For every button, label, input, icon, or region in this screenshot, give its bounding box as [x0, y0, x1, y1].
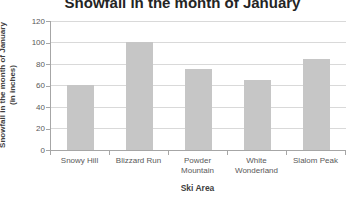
x-axis-title: Ski Area	[50, 183, 345, 193]
y-tick-label: 60	[0, 81, 45, 90]
y-tick-mark	[46, 64, 50, 65]
x-tick-mark	[227, 151, 228, 155]
x-tick-mark	[168, 151, 169, 155]
y-tick-mark	[46, 129, 50, 130]
bar-white-wonderland	[244, 80, 271, 150]
category-label: Snowy Hill	[50, 156, 109, 166]
category-label: Powder Mountain	[168, 156, 227, 175]
y-tick-mark	[46, 43, 50, 44]
plot-area	[50, 21, 346, 151]
x-tick-mark	[50, 151, 51, 155]
y-tick-mark	[46, 21, 50, 22]
category-label: White Wonderland	[227, 156, 286, 175]
category-label: Blizzard Run	[109, 156, 168, 166]
x-tick-mark	[109, 151, 110, 155]
gridline	[51, 64, 346, 65]
x-tick-mark	[286, 151, 287, 155]
y-tick-label: 20	[0, 124, 45, 133]
y-tick-label: 80	[0, 60, 45, 69]
chart-title: Snowfall in the month of January	[14, 0, 351, 11]
y-tick-label: 40	[0, 103, 45, 112]
x-tick-mark	[345, 151, 346, 155]
y-tick-label: 0	[0, 146, 45, 155]
y-tick-label: 100	[0, 38, 45, 47]
y-tick-mark	[46, 107, 50, 108]
bar-snowy-hill	[67, 85, 94, 150]
bar-powder-mountain	[185, 69, 212, 150]
y-tick-label: 120	[0, 17, 45, 26]
y-tick-mark	[46, 86, 50, 87]
category-label: Slalom Peak	[286, 156, 345, 166]
bar-slalom-peak	[303, 59, 330, 150]
gridline	[51, 21, 346, 22]
bar-blizzard-run	[126, 42, 153, 150]
bar-chart: Snowfall in the month of January Snowfal…	[0, 0, 351, 197]
gridline	[51, 42, 346, 43]
